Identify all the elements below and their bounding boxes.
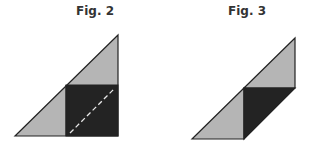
fig-2-diagram (15, 35, 118, 136)
fig-3-upper-light-triangle (244, 38, 295, 88)
fig-3-diagram (192, 38, 295, 139)
fig-3-dark-triangle (244, 88, 295, 139)
fig-3-lower-light-triangle (192, 88, 244, 139)
figures-canvas (0, 0, 310, 154)
